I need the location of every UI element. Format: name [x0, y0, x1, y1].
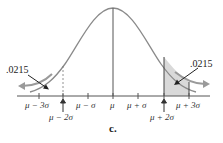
label-mu-minus-sigma: μ − σ — [76, 100, 96, 110]
label-mu-plus-3sigma: μ + 3σ — [176, 100, 200, 110]
label-mu-minus-2sigma: μ − 2σ — [49, 112, 73, 122]
right-tail-probability: .0215 — [190, 58, 213, 69]
label-mu-minus-3sigma: μ − 3σ — [25, 100, 49, 110]
left-tail-curved-arrow-icon — [22, 74, 52, 86]
normal-curve-figure: .0215 .0215 μ − 3σ μ − 2σ μ − σ μ μ + σ … — [0, 0, 223, 143]
label-mu-plus-2sigma: μ + 2σ — [150, 112, 174, 122]
figure-caption: c. — [109, 122, 117, 134]
label-mu: μ — [110, 100, 115, 110]
label-mu-plus-sigma: μ + σ — [127, 100, 147, 110]
left-tail-probability: .0215 — [6, 64, 29, 75]
